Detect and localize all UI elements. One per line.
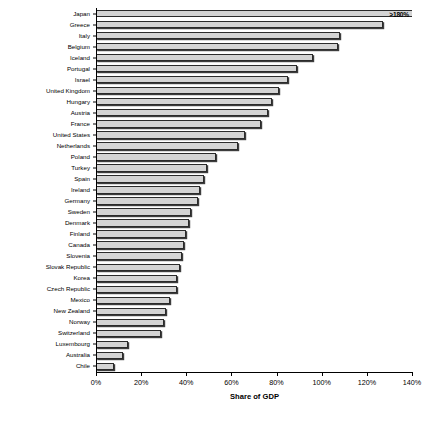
category-label: Italy xyxy=(79,32,90,38)
bar-row: Australia xyxy=(96,352,412,359)
bar-row: Iceland xyxy=(96,54,412,61)
bar xyxy=(96,352,123,359)
bar xyxy=(96,76,288,83)
bar-row: Chile xyxy=(96,363,412,370)
bar xyxy=(96,142,238,149)
category-label: Chile xyxy=(76,363,90,369)
category-label: Greece xyxy=(70,21,90,27)
category-label: Korea xyxy=(73,275,90,281)
bar xyxy=(96,241,184,248)
category-label: Canada xyxy=(68,242,90,248)
y-axis-line xyxy=(96,8,97,372)
category-label: Switzerland xyxy=(58,330,90,336)
category-label: Spain xyxy=(74,176,90,182)
bar-row: Germany xyxy=(96,197,412,204)
category-label: Finland xyxy=(70,231,90,237)
bar-rows: Japan>180%GreeceItalyBelgiumIcelandPortu… xyxy=(96,8,412,372)
x-tick xyxy=(96,372,97,376)
x-tick-label: 20% xyxy=(134,378,148,387)
category-label: Denmark xyxy=(65,220,90,226)
x-tick xyxy=(231,372,232,376)
bar-value-annotation: >180% xyxy=(389,10,409,17)
bar xyxy=(96,219,189,226)
x-tick-label: 100% xyxy=(313,378,331,387)
bar xyxy=(96,308,166,315)
bar-row: Slovenia xyxy=(96,252,412,259)
bar xyxy=(96,264,180,271)
x-tick xyxy=(322,372,323,376)
category-label: Sweden xyxy=(68,209,90,215)
x-tick xyxy=(186,372,187,376)
x-tick-label: 60% xyxy=(224,378,238,387)
bar-row: Switzerland xyxy=(96,330,412,337)
category-label: Portugal xyxy=(67,66,90,72)
bar-row: Netherlands xyxy=(96,142,412,149)
bar-row: Sweden xyxy=(96,208,412,215)
bar xyxy=(96,175,204,182)
x-tick-label: 140% xyxy=(403,378,421,387)
bar-row: Luxembourg xyxy=(96,341,412,348)
category-label: Norway xyxy=(69,319,90,325)
bar xyxy=(96,252,182,259)
category-label: Belgium xyxy=(68,43,90,49)
bar-row: Ireland xyxy=(96,186,412,193)
category-label: United Kingdom xyxy=(46,88,90,94)
category-label: France xyxy=(71,121,90,127)
bar-row: Israel xyxy=(96,76,412,83)
bar-row: Slovak Republic xyxy=(96,264,412,271)
bar-row: Belgium xyxy=(96,43,412,50)
x-tick xyxy=(141,372,142,376)
bar xyxy=(96,275,177,282)
bar xyxy=(96,230,186,237)
category-label: Hungary xyxy=(67,99,90,105)
bar xyxy=(96,98,272,105)
bar xyxy=(96,197,198,204)
category-label: Japan xyxy=(73,10,90,16)
bar: >180% xyxy=(96,10,412,17)
bar-row: United Kingdom xyxy=(96,87,412,94)
plot-area: Japan>180%GreeceItalyBelgiumIcelandPortu… xyxy=(96,8,412,372)
category-label: Germany xyxy=(65,198,90,204)
bar xyxy=(96,164,207,171)
bar-row: Korea xyxy=(96,275,412,282)
bar-row: New Zealand xyxy=(96,308,412,315)
bar xyxy=(96,32,340,39)
bar-row: Poland xyxy=(96,153,412,160)
x-tick xyxy=(367,372,368,376)
bar xyxy=(96,54,313,61)
category-label: Netherlands xyxy=(57,143,90,149)
bar xyxy=(96,319,164,326)
category-label: Slovenia xyxy=(66,253,90,259)
bar-row: Mexico xyxy=(96,297,412,304)
bar-chart: Japan>180%GreeceItalyBelgiumIcelandPortu… xyxy=(0,0,447,424)
bar-row: Spain xyxy=(96,175,412,182)
category-label: Israel xyxy=(75,77,90,83)
category-label: Poland xyxy=(71,154,90,160)
bar xyxy=(96,43,338,50)
category-label: Australia xyxy=(66,352,90,358)
x-tick-label: 0% xyxy=(91,378,101,387)
bar-row: Greece xyxy=(96,21,412,28)
bar xyxy=(96,120,261,127)
x-axis-line xyxy=(96,372,413,373)
bar-row: Norway xyxy=(96,319,412,326)
bar xyxy=(96,109,268,116)
bar-row: Turkey xyxy=(96,164,412,171)
bar xyxy=(96,286,177,293)
category-label: Slovak Republic xyxy=(46,264,90,270)
bar xyxy=(96,21,383,28)
bar-row: Finland xyxy=(96,230,412,237)
bar-row: Japan>180% xyxy=(96,10,412,17)
bar-row: Denmark xyxy=(96,219,412,226)
bar xyxy=(96,186,200,193)
x-axis-title: Share of GDP xyxy=(96,392,413,401)
x-tick xyxy=(277,372,278,376)
bar-row: Czech Republic xyxy=(96,286,412,293)
x-tick xyxy=(412,372,413,376)
bar xyxy=(96,363,114,370)
category-label: Ireland xyxy=(71,187,90,193)
bar xyxy=(96,341,128,348)
category-label: Iceland xyxy=(70,55,90,61)
category-label: Mexico xyxy=(70,297,90,303)
x-tick-label: 120% xyxy=(358,378,376,387)
